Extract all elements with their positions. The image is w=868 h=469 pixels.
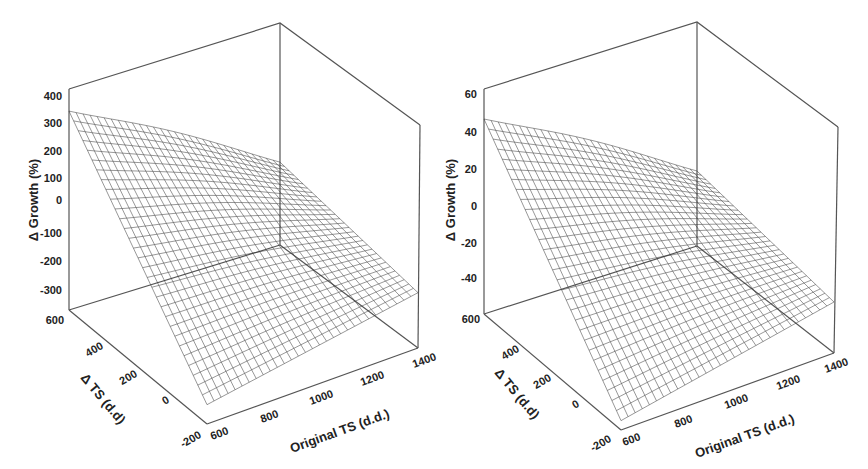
mesh-line xyxy=(207,293,418,405)
mesh-line xyxy=(525,205,738,210)
z-tick: 400 xyxy=(44,90,62,102)
mesh-line xyxy=(129,219,340,239)
mesh-line xyxy=(97,170,308,188)
x-tick: 1200 xyxy=(775,372,802,392)
x-tick: 800 xyxy=(673,412,694,430)
mesh-line xyxy=(566,250,779,300)
left-z-label: Δ Growth (%) xyxy=(26,159,41,241)
right-box-top xyxy=(484,22,838,127)
mesh-line xyxy=(132,123,270,371)
right-x-axis xyxy=(621,353,834,430)
y-tick: 400 xyxy=(499,342,521,362)
mesh-line xyxy=(571,254,784,310)
mesh-line xyxy=(182,133,320,344)
mesh-line xyxy=(175,132,313,349)
x-tick: 1400 xyxy=(411,350,438,370)
mesh-line xyxy=(110,195,321,201)
mesh-line xyxy=(90,115,228,393)
left-x-label: Original TS (d.d.) xyxy=(288,406,392,456)
left-surface-mesh xyxy=(69,111,418,405)
right-z-ticks: 60 40 20 0 -20 -40 xyxy=(461,88,477,284)
figure: 400 300 200 100 0 -100 -200 -300 Δ Growt… xyxy=(0,0,868,469)
z-tick: 0 xyxy=(56,194,62,206)
z-tick: 20 xyxy=(465,163,477,175)
mesh-line xyxy=(189,275,400,365)
mesh-line xyxy=(210,141,348,330)
x-tick: 800 xyxy=(259,407,280,425)
mesh-line xyxy=(217,143,355,326)
x-tick: 1000 xyxy=(308,387,335,407)
mesh-line xyxy=(170,258,381,326)
right-y-label: Δ TS (d.d) xyxy=(492,365,543,422)
mesh-line xyxy=(245,152,383,312)
left-y-axis xyxy=(69,310,207,424)
mesh-line xyxy=(662,160,799,321)
mesh-line xyxy=(231,147,369,318)
x-tick: 1400 xyxy=(823,355,850,375)
y-tick: -200 xyxy=(588,432,613,453)
mesh-line xyxy=(676,165,813,314)
x-tick: 1200 xyxy=(359,368,386,388)
z-tick: 60 xyxy=(465,88,477,100)
x-tick: 600 xyxy=(621,430,642,448)
z-tick: 200 xyxy=(44,145,62,157)
mesh-line xyxy=(557,241,770,280)
mesh-line xyxy=(160,128,298,356)
y-tick: 0 xyxy=(160,393,171,406)
mesh-line xyxy=(196,137,334,337)
mesh-line xyxy=(83,114,221,397)
right-x-label: Original TS (d.d.) xyxy=(693,411,797,461)
mesh-line xyxy=(138,227,349,257)
mesh-line xyxy=(562,245,775,290)
mesh-line xyxy=(139,124,277,367)
left-box-top xyxy=(69,23,420,125)
y-tick: 600 xyxy=(46,314,64,326)
y-tick: 600 xyxy=(462,313,480,325)
x-tick: 1000 xyxy=(723,391,750,411)
mesh-line xyxy=(575,258,788,320)
y-tick: -200 xyxy=(178,428,203,449)
z-tick: -40 xyxy=(461,272,477,284)
z-tick: 100 xyxy=(44,172,62,184)
mesh-line xyxy=(238,150,376,315)
z-tick: -20 xyxy=(461,237,477,249)
right-surface-plot: 60 40 20 0 -20 -40 Δ Growth (%) 600 400 … xyxy=(443,22,850,461)
mesh-line xyxy=(224,145,362,322)
left-surface-plot: 400 300 200 100 0 -100 -200 -300 Δ Growt… xyxy=(26,23,438,456)
right-right-vertical xyxy=(834,127,838,353)
mesh-line xyxy=(502,159,715,188)
x-tick: 600 xyxy=(209,424,230,442)
mesh-line xyxy=(598,280,811,370)
mesh-line xyxy=(87,150,298,179)
mesh-line xyxy=(104,118,242,386)
left-right-vertical xyxy=(418,125,420,348)
mesh-line xyxy=(147,236,358,277)
right-surface-mesh xyxy=(484,119,834,421)
y-tick: 200 xyxy=(531,371,553,391)
y-tick: 0 xyxy=(570,397,581,410)
y-tick: 400 xyxy=(83,339,105,359)
y-tick: 200 xyxy=(117,367,139,387)
z-tick: 300 xyxy=(44,117,62,129)
right-z-label: Δ Growth (%) xyxy=(443,159,458,241)
mesh-line xyxy=(530,212,743,219)
mesh-line xyxy=(603,285,816,381)
mesh-line xyxy=(83,140,294,175)
left-z-ticks: 400 300 200 100 0 -100 -200 -300 xyxy=(40,90,62,296)
z-tick: -300 xyxy=(40,284,62,296)
mesh-line xyxy=(498,149,711,184)
z-tick: 40 xyxy=(465,126,477,138)
z-tick: 0 xyxy=(471,200,477,212)
z-tick: -100 xyxy=(40,227,62,239)
mesh-line xyxy=(669,163,806,318)
z-tick: -200 xyxy=(40,255,62,267)
mesh-line xyxy=(167,130,305,352)
mesh-line xyxy=(203,139,341,334)
